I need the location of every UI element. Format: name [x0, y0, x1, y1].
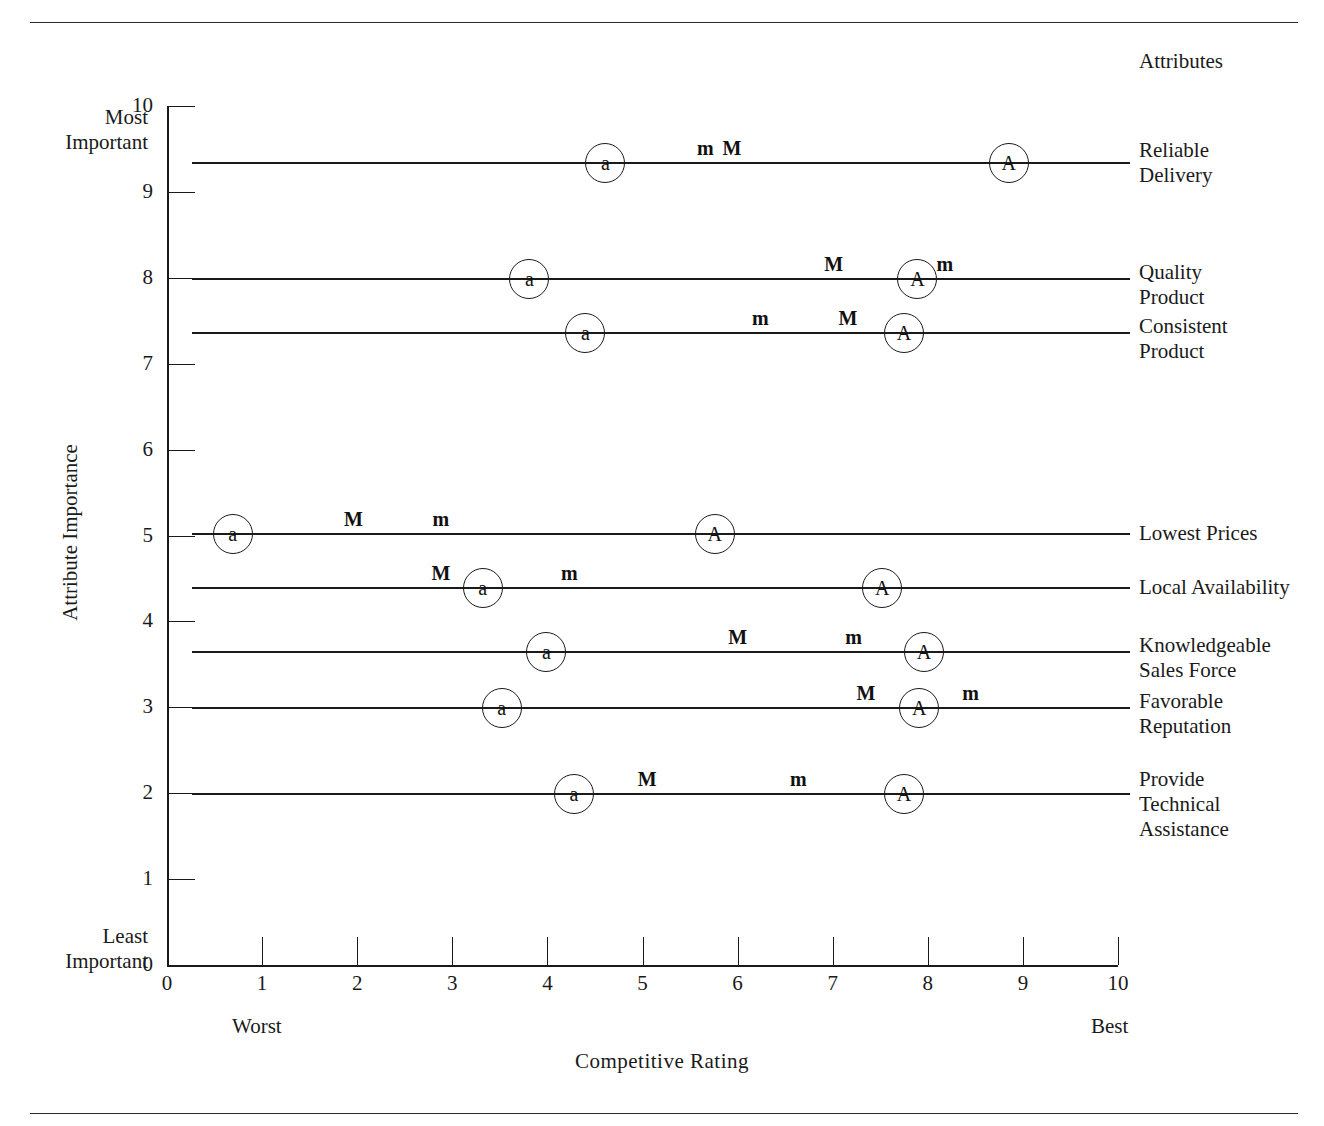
- x-axis-tick: [1023, 937, 1024, 965]
- y-axis-tick: [167, 106, 195, 107]
- rating-marker-M[interactable]: M: [426, 563, 456, 583]
- rating-marker-m[interactable]: m: [554, 563, 584, 583]
- attribute-label: Knowledgeable Sales Force: [1139, 633, 1271, 683]
- y-axis-tick-label: 4: [113, 610, 153, 631]
- y-axis-tick-label: 7: [113, 353, 153, 374]
- x-axis-tick-label: 1: [242, 972, 282, 994]
- y-axis-tick-label: 10: [113, 95, 153, 116]
- y-axis-tick: [167, 450, 195, 451]
- rating-marker-A[interactable]: A: [884, 774, 924, 814]
- x-axis-tick: [262, 937, 263, 965]
- y-axis-tick: [167, 621, 195, 622]
- rating-marker-a[interactable]: a: [463, 568, 503, 608]
- x-axis-tick: [738, 937, 739, 965]
- x-axis-tick: [643, 937, 644, 965]
- rating-marker-m[interactable]: m: [745, 308, 775, 328]
- rating-marker-a[interactable]: a: [213, 514, 253, 554]
- y-axis-tick: [167, 278, 195, 279]
- attribute-line: [192, 533, 1130, 535]
- y-axis-tick-label: 8: [113, 267, 153, 288]
- rating-marker-M[interactable]: M: [851, 683, 881, 703]
- x-axis-tick: [1118, 937, 1119, 965]
- y-axis-tick: [167, 536, 195, 537]
- attribute-label: Provide Technical Assistance: [1139, 767, 1229, 842]
- rating-marker-a[interactable]: a: [554, 774, 594, 814]
- attribute-line: [192, 587, 1130, 589]
- x-axis-tick: [833, 937, 834, 965]
- rating-marker-m[interactable]: m: [956, 683, 986, 703]
- x-axis-tick-label: 3: [432, 972, 472, 994]
- x-axis-tick-label: 0: [147, 972, 187, 994]
- plot-area: 012345678910012345678910amMAReliable Del…: [0, 0, 1324, 1126]
- x-axis-tick-label: 2: [337, 972, 377, 994]
- attribute-line: [192, 651, 1130, 653]
- y-axis-tick: [167, 879, 195, 880]
- attribute-line: [192, 278, 1130, 280]
- x-axis-tick-label: 10: [1098, 972, 1138, 994]
- x-axis-tick-label: 4: [527, 972, 567, 994]
- rating-marker-m[interactable]: m: [930, 254, 960, 274]
- rating-marker-A[interactable]: A: [904, 632, 944, 672]
- rating-marker-A[interactable]: A: [695, 514, 735, 554]
- rating-marker-M[interactable]: M: [833, 308, 863, 328]
- y-axis-tick-label: 6: [113, 439, 153, 460]
- y-axis-tick: [167, 192, 195, 193]
- attribute-label: Reliable Delivery: [1139, 138, 1212, 188]
- rating-marker-m[interactable]: m: [690, 138, 720, 158]
- rating-marker-M[interactable]: M: [338, 509, 368, 529]
- y-axis-tick-label: 5: [113, 525, 153, 546]
- x-axis-tick-label: 8: [908, 972, 948, 994]
- x-axis-tick-label: 6: [718, 972, 758, 994]
- rating-marker-M[interactable]: M: [717, 138, 747, 158]
- rating-marker-m[interactable]: m: [839, 627, 869, 647]
- y-axis-tick: [167, 707, 195, 708]
- attribute-label: Consistent Product: [1139, 314, 1228, 364]
- rating-marker-M[interactable]: M: [632, 769, 662, 789]
- rating-marker-A[interactable]: A: [899, 688, 939, 728]
- rating-marker-a[interactable]: a: [482, 688, 522, 728]
- y-axis-tick-label: 9: [113, 181, 153, 202]
- rating-marker-a[interactable]: a: [565, 313, 605, 353]
- y-axis-tick: [167, 965, 195, 966]
- attribute-label: Quality Product: [1139, 260, 1204, 310]
- attribute-line: [192, 793, 1130, 795]
- rating-marker-a[interactable]: a: [585, 143, 625, 183]
- x-axis-tick: [928, 937, 929, 965]
- attribute-label: Local Availability: [1139, 575, 1290, 600]
- x-axis-tick: [357, 937, 358, 965]
- y-axis-tick-label: 3: [113, 696, 153, 717]
- rating-marker-M[interactable]: M: [723, 627, 753, 647]
- attribute-line: [192, 707, 1130, 709]
- x-axis-tick-label: 5: [623, 972, 663, 994]
- rating-marker-a[interactable]: a: [509, 259, 549, 299]
- y-axis-tick: [167, 793, 195, 794]
- rating-marker-M[interactable]: M: [819, 254, 849, 274]
- y-axis-tick-label: 2: [113, 782, 153, 803]
- x-axis-tick-label: 9: [1003, 972, 1043, 994]
- rating-marker-A[interactable]: A: [862, 568, 902, 608]
- y-axis-tick-label: 1: [113, 868, 153, 889]
- x-axis-tick: [452, 937, 453, 965]
- attribute-label: Lowest Prices: [1139, 521, 1257, 546]
- rating-marker-A[interactable]: A: [884, 313, 924, 353]
- x-axis-tick-label: 7: [813, 972, 853, 994]
- y-axis-tick: [167, 364, 195, 365]
- x-axis-tick: [547, 937, 548, 965]
- attribute-line: [192, 332, 1130, 334]
- rating-marker-a[interactable]: a: [526, 632, 566, 672]
- rating-marker-m[interactable]: m: [426, 509, 456, 529]
- attribute-label: Favorable Reputation: [1139, 689, 1231, 739]
- rating-marker-m[interactable]: m: [783, 769, 813, 789]
- rating-marker-A[interactable]: A: [989, 143, 1029, 183]
- x-axis-line: [167, 965, 1118, 967]
- figure-page: Attributes Most Important Least Importan…: [0, 0, 1324, 1126]
